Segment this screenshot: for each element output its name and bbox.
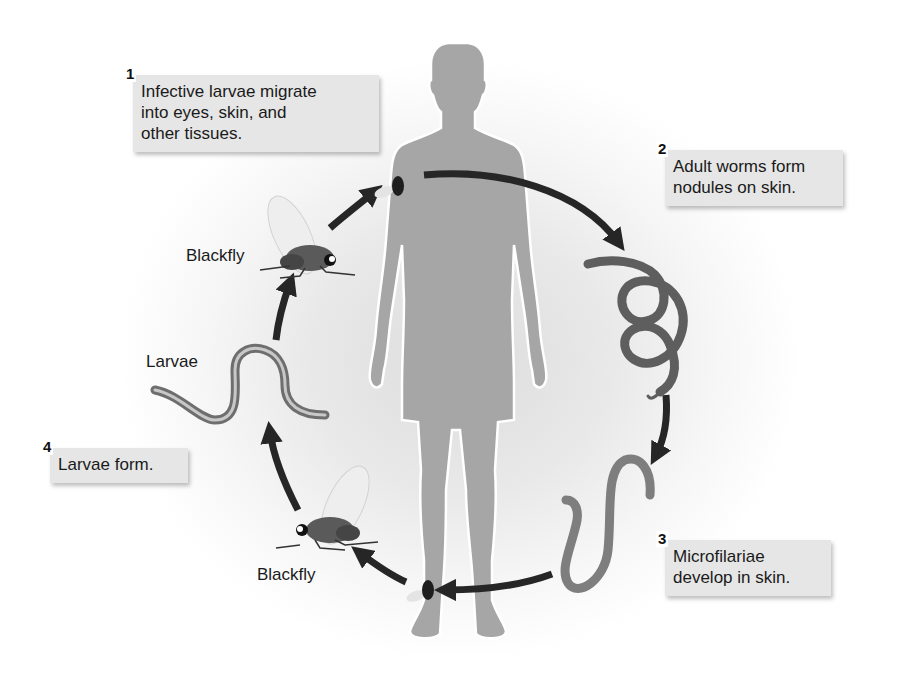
- step-1-line-3: other tissues.: [141, 123, 369, 144]
- arrow-larvae-to-blackfly: [276, 283, 290, 340]
- blackfly-bottom-illustration: [276, 459, 379, 550]
- arrow-ankle-to-blackfly: [360, 553, 406, 582]
- microfilariae-illustration: [565, 459, 651, 588]
- arrow-microfilariae-to-ankle: [445, 574, 552, 590]
- callout-step-2: 2 Adult worms form nodules on skin.: [665, 150, 843, 206]
- step-number-2: 2: [656, 141, 668, 157]
- step-2-line-2: nodules on skin.: [673, 177, 833, 198]
- callout-step-3: 3 Microfilariae develop in skin.: [665, 540, 831, 596]
- step-number-1: 1: [124, 66, 136, 82]
- adult-worms-illustration: [588, 261, 683, 398]
- step-3-line-1: Microfilariae: [673, 546, 821, 567]
- label-larvae: Larvae: [146, 352, 198, 372]
- blackfly-top-illustration: [258, 189, 355, 280]
- step-2-line-1: Adult worms form: [673, 156, 833, 177]
- arrow-blackfly-to-larvae: [270, 432, 298, 510]
- step-1-line-2: into eyes, skin, and: [141, 102, 369, 123]
- step-number-3: 3: [656, 531, 668, 547]
- callout-step-4: 4 Larvae form.: [50, 448, 188, 483]
- step-1-line-1: Infective larvae migrate: [141, 81, 369, 102]
- step-4-line-1: Larvae form.: [58, 454, 178, 475]
- label-blackfly-top: Blackfly: [186, 246, 245, 266]
- label-blackfly-bottom: Blackfly: [257, 565, 316, 585]
- step-3-line-2: develop in skin.: [673, 567, 821, 588]
- callout-step-1: 1 Infective larvae migrate into eyes, sk…: [133, 75, 379, 152]
- human-silhouette: [370, 43, 547, 638]
- step-number-4: 4: [41, 439, 53, 455]
- arrow-adult-worms-to-microfilariae: [656, 395, 667, 455]
- arrow-blackfly-to-shoulder: [330, 192, 374, 228]
